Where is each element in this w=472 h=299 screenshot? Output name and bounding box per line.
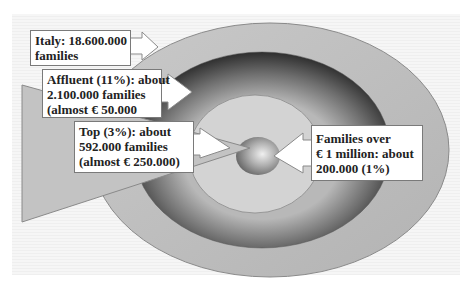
callout-affluent-line-1: Affluent (11%): about xyxy=(47,72,157,87)
callout-italy-line-1: Italy: 18.600.000 xyxy=(35,33,126,48)
callout-millionaires: Families over € 1 million: about 200.000… xyxy=(311,125,423,181)
callout-millionaires-line-2: € 1 million: about xyxy=(316,146,418,161)
callout-top-line-3: (almost € 250.000) xyxy=(79,154,189,169)
callout-affluent-line-3: (almost € 50.000 xyxy=(47,102,157,117)
callout-millionaires-line-3: 200.000 (1%) xyxy=(316,161,418,176)
callout-italy: Italy: 18.600.000 families xyxy=(30,30,131,66)
callout-top-line-2: 592.000 families xyxy=(79,139,189,154)
callout-top-line-1: Top (3%): about xyxy=(79,124,189,139)
diagram-canvas: Italy: 18.600.000 families Affluent (11%… xyxy=(0,0,472,299)
callout-top: Top (3%): about 592.000 families (almost… xyxy=(74,121,194,173)
callout-millionaires-line-1: Families over xyxy=(316,131,418,146)
callout-affluent: Affluent (11%): about 2.100.000 families… xyxy=(42,69,162,118)
callout-affluent-line-2: 2.100.000 families xyxy=(47,87,157,102)
callout-italy-line-2: families xyxy=(35,48,126,63)
